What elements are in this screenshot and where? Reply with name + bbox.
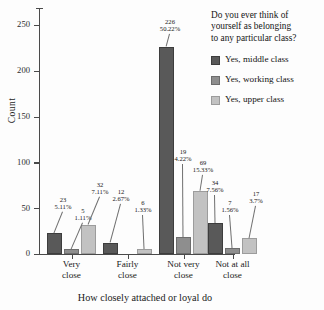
data-label-count: 34 <box>200 179 230 186</box>
x-category-line: Very <box>44 259 100 270</box>
data-label-percent: 1.56% <box>215 206 245 213</box>
x-category-label-2: Not veryclose <box>156 259 212 280</box>
y-tick-label: 100 <box>0 158 30 167</box>
y-tick <box>34 25 39 26</box>
leader-line-1-3 <box>229 215 232 248</box>
leader-line-1-2 <box>182 164 183 237</box>
legend-swatch-icon <box>211 56 220 65</box>
y-tick <box>34 117 39 118</box>
data-label-count: 17 <box>241 190 271 197</box>
y-axis-title: Count <box>6 81 17 141</box>
bar-1-3 <box>225 248 240 254</box>
data-label-count: 23 <box>48 196 78 203</box>
x-category-label-3: Not at allclose <box>205 259 261 280</box>
bar-1-0 <box>64 249 79 254</box>
data-label-count: 6 <box>128 199 158 206</box>
bar-0-3 <box>208 223 223 254</box>
x-category-label-1: Fairlyclose <box>100 259 156 280</box>
leader-line-0-2 <box>166 34 170 47</box>
data-label-percent: 7.56% <box>200 186 230 193</box>
bar-2-1 <box>137 249 152 255</box>
bar-2-3 <box>242 238 257 254</box>
legend: Do you ever think ofyourself as belongin… <box>211 10 324 116</box>
legend-title-line: yourself as belonging <box>211 21 324 32</box>
legend-entry-1[interactable]: Yes, working class <box>211 75 324 85</box>
legend-title: Do you ever think ofyourself as belongin… <box>211 10 324 44</box>
legend-label: Yes, middle class <box>225 55 289 65</box>
data-label-2-0: 327.11% <box>85 181 115 195</box>
legend-entry-0[interactable]: Yes, middle class <box>211 55 324 65</box>
data-label-count: 69 <box>188 159 218 166</box>
data-label-2-3: 173.7% <box>241 190 271 204</box>
bar-2-0 <box>81 225 96 254</box>
legend-entry-2[interactable]: Yes, upper class <box>211 95 324 105</box>
y-tick-label: 0 <box>0 249 30 258</box>
legend-title-line: to any particular class? <box>211 33 324 44</box>
bar-0-1 <box>103 243 118 254</box>
bar-0-0 <box>47 233 62 254</box>
legend-label: Yes, upper class <box>225 95 284 105</box>
x-category-line: close <box>156 270 212 281</box>
bar-chart-figure: 050100150200250 Count VerycloseFairlyclo… <box>0 0 324 310</box>
y-axis-line <box>39 8 40 255</box>
x-category-line: Fairly <box>100 259 156 270</box>
y-tick <box>34 162 39 163</box>
data-label-count: 19 <box>168 148 198 155</box>
y-tick <box>34 208 39 209</box>
leader-line-2-3 <box>249 206 256 239</box>
data-label-count: 32 <box>85 181 115 188</box>
bar-2-2 <box>193 191 208 254</box>
y-tick-label: 50 <box>0 204 30 213</box>
data-label-percent: 15.33% <box>188 166 218 173</box>
x-category-line: close <box>100 270 156 281</box>
legend-swatch-icon <box>211 76 220 85</box>
x-category-label-0: Veryclose <box>44 259 100 280</box>
data-label-percent: 1.33% <box>128 206 158 213</box>
legend-entries: Yes, middle classYes, working classYes, … <box>211 55 324 105</box>
legend-title-line: Do you ever think of <box>211 10 324 21</box>
data-label-2-1: 61.33% <box>128 199 158 213</box>
x-category-line: close <box>44 270 100 281</box>
leader-line-0-1 <box>110 204 121 243</box>
x-axis-title: How closely attached or loyal do <box>33 292 257 303</box>
x-axis-line <box>39 254 235 255</box>
x-category-line: close <box>205 270 261 281</box>
x-category-line: Not very <box>156 259 212 270</box>
data-label-2-2: 6915.33% <box>188 159 218 173</box>
legend-swatch-icon <box>211 96 220 105</box>
data-label-percent: 50.22% <box>155 25 185 32</box>
bar-1-2 <box>176 237 191 254</box>
legend-label: Yes, working class <box>225 75 294 85</box>
y-tick <box>34 71 39 72</box>
data-label-percent: 7.11% <box>85 188 115 195</box>
data-label-0-3: 347.56% <box>200 179 230 193</box>
y-tick-label: 200 <box>0 66 30 75</box>
data-label-0-2: 22650.22% <box>155 18 185 32</box>
data-label-percent: 1.11% <box>68 214 98 221</box>
data-label-count: 226 <box>155 18 185 25</box>
y-tick-label: 250 <box>0 20 30 29</box>
x-category-line: Not at all <box>205 259 261 270</box>
data-label-percent: 3.7% <box>241 197 271 204</box>
leader-line-2-1 <box>142 215 144 248</box>
leader-line-0-0 <box>54 212 63 233</box>
y-axis-top-cap <box>36 8 43 9</box>
